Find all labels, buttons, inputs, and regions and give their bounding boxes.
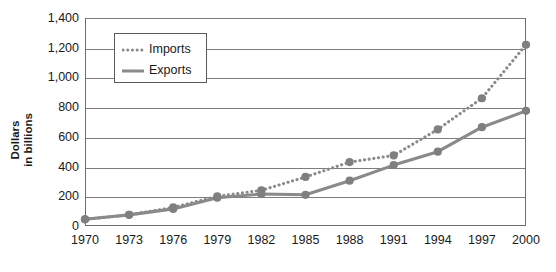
- x-axis-tick-label: 2000: [503, 234, 549, 247]
- data-point-imports: [346, 158, 354, 166]
- data-point-imports: [301, 173, 309, 181]
- x-axis-tick-label: 1997: [459, 234, 505, 247]
- y-axis-tick-label: 800: [31, 101, 79, 113]
- legend: ImportsExports: [114, 33, 207, 83]
- x-axis-tick-label: 1973: [106, 234, 152, 247]
- legend-item-label: Exports: [149, 64, 191, 77]
- data-point-exports: [434, 148, 442, 156]
- x-axis-tick-label: 1970: [62, 234, 108, 247]
- solid-line-icon: [122, 65, 144, 77]
- y-axis-tick-label: 1,000: [31, 71, 79, 83]
- data-point-exports: [346, 177, 354, 185]
- x-axis-tick-label: 1988: [327, 234, 373, 247]
- legend-item-label: Imports: [149, 43, 191, 56]
- data-point-imports: [434, 125, 442, 133]
- data-point-exports: [81, 215, 89, 223]
- data-point-exports: [390, 161, 398, 169]
- dotted-line-icon: [122, 44, 144, 56]
- x-axis-tick-label: 1985: [283, 234, 329, 247]
- x-axis-tick-label: 1979: [194, 234, 240, 247]
- y-axis-tick-label: 1,200: [31, 42, 79, 54]
- data-point-imports: [522, 41, 530, 49]
- y-axis-tick-label: 1,400: [31, 12, 79, 24]
- legend-item: Exports: [122, 60, 206, 81]
- data-point-exports: [213, 194, 221, 202]
- data-point-exports: [257, 190, 265, 198]
- series-line-exports: [85, 111, 526, 219]
- data-point-exports: [125, 211, 133, 219]
- data-point-imports: [390, 151, 398, 159]
- x-axis-tick-label: 1991: [371, 234, 417, 247]
- y-axis-tick-label: 0: [31, 220, 79, 232]
- data-point-imports: [478, 94, 486, 102]
- data-point-exports: [478, 123, 486, 131]
- x-axis-tick-label: 1976: [150, 234, 196, 247]
- data-point-exports: [522, 107, 530, 115]
- y-axis-tick-label: 400: [31, 161, 79, 173]
- x-axis-tick-label: 1994: [415, 234, 461, 247]
- y-axis-tick-label: 600: [31, 131, 79, 143]
- legend-item: Imports: [122, 39, 206, 60]
- y-axis-tick-label: 200: [31, 190, 79, 202]
- x-axis-tick-label: 1982: [238, 234, 284, 247]
- line-chart: Dollars in billions 1,4001,2001,00080060…: [0, 0, 556, 272]
- data-point-exports: [169, 205, 177, 213]
- data-point-exports: [301, 191, 309, 199]
